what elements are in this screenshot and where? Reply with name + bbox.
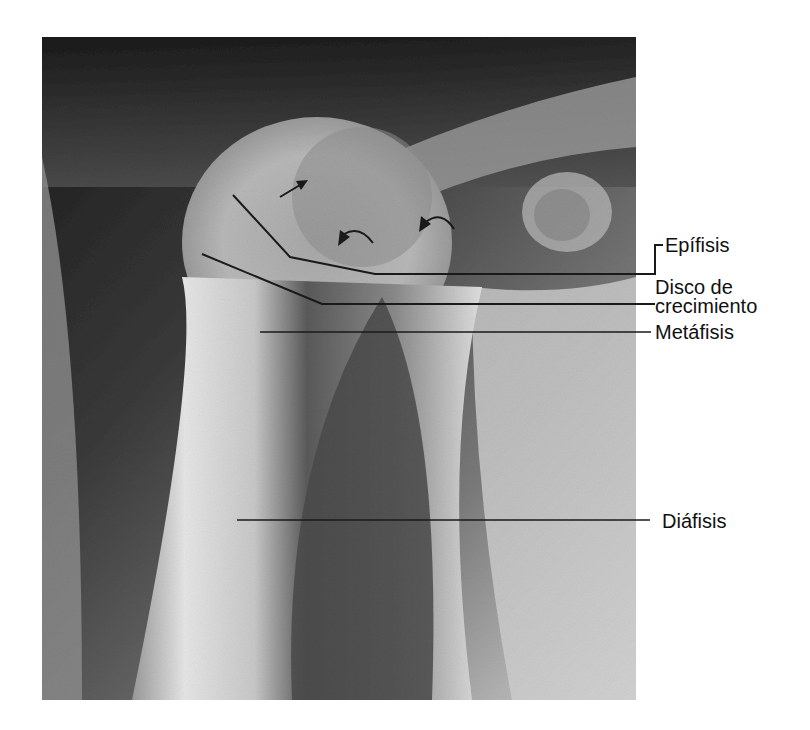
label-disco-line2: crecimiento [655,295,757,317]
annotation-layer [0,0,810,730]
curved-arrow-icon [338,230,373,246]
label-diafisis: Diáfisis [662,510,726,532]
label-epifisis: Epífisis [665,234,729,256]
disco-leader-line [202,254,655,304]
epifisis-leader-line [233,195,663,274]
label-metafisis: Metáfisis [655,321,734,343]
straight-arrow-icon [280,180,308,197]
curved-arrow-icon [419,216,454,232]
